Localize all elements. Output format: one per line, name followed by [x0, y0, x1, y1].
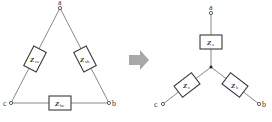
impedance-zb: Z b	[222, 73, 248, 98]
terminal-label-b: b	[262, 100, 266, 109]
impedance-zab: Z ab	[73, 46, 96, 72]
impedance-subscript: a	[212, 42, 214, 47]
star-center-node	[210, 66, 213, 69]
terminal-label-a: a	[209, 3, 213, 12]
terminal-label-c: c	[154, 100, 158, 109]
impedance-subscript: ab	[85, 59, 90, 64]
impedance-za: Z a	[200, 35, 222, 49]
impedance-zc: Z c	[174, 73, 200, 98]
terminal-label-a: a	[58, 0, 62, 7]
terminal-c	[9, 101, 12, 104]
impedance-subscript: c	[188, 85, 190, 90]
star-network: Z a Z c Z b a b c	[154, 3, 266, 109]
impedance-subscript: ca	[35, 59, 39, 64]
impedance-subscript: bc	[60, 103, 64, 108]
delta-network: Z ca Z ab Z bc a b c	[3, 0, 116, 110]
terminal-b	[107, 101, 110, 104]
terminal-c	[161, 102, 164, 105]
delta-star-diagram: Z ca Z ab Z bc a b c	[0, 0, 272, 122]
transform-arrow-icon	[129, 50, 149, 70]
impedance-zca: Z ca	[24, 46, 47, 72]
terminal-label-c: c	[3, 99, 7, 108]
terminal-label-b: b	[112, 99, 116, 108]
impedance-zbc: Z bc	[49, 96, 71, 110]
terminal-b	[257, 102, 260, 105]
